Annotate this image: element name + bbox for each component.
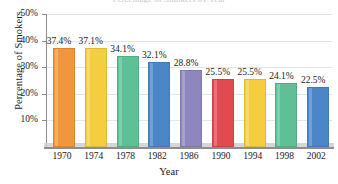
y-axis-tick-label: 10%: [4, 115, 38, 125]
bar-highlight: [119, 57, 122, 146]
y-axis-tick-label: 20%: [4, 89, 38, 99]
y-axis-tick-label: 50%: [4, 9, 38, 19]
x-axis-tick-label: 2002: [297, 151, 335, 161]
bar-highlight: [182, 71, 185, 146]
bar[interactable]: [212, 79, 234, 147]
bar-slot: 25.5%: [207, 14, 239, 147]
bar[interactable]: [307, 87, 329, 147]
bar-value-label: 22.5%: [294, 75, 332, 85]
bar[interactable]: [148, 62, 170, 147]
bar[interactable]: [275, 83, 297, 147]
bar-series: 37.4%37.1%34.1%32.1%28.8%25.5%25.5%24.1%…: [46, 14, 332, 147]
bar-highlight: [214, 80, 217, 146]
bar[interactable]: [117, 56, 139, 147]
bar-highlight: [55, 49, 58, 146]
plot-area: 10%20%30%40%50% 37.4%37.1%34.1%32.1%28.8…: [46, 14, 332, 147]
y-axis-tick-label: 40%: [4, 36, 38, 46]
bar-slot: 28.8%: [175, 14, 207, 147]
bar-slot: 34.1%: [112, 14, 144, 147]
bar-highlight: [150, 63, 153, 146]
bar-highlight: [246, 80, 249, 146]
bar[interactable]: [244, 79, 266, 147]
bar-slot: 37.4%: [48, 14, 80, 147]
bar[interactable]: [180, 70, 202, 147]
bar-slot: 32.1%: [143, 14, 175, 147]
bar-slot: 37.1%: [80, 14, 112, 147]
x-axis-title: Year: [0, 166, 338, 177]
bar-highlight: [87, 49, 90, 146]
bar[interactable]: [53, 48, 75, 147]
chart-title: Percentage of Smokers by Year: [0, 0, 338, 3]
bar-highlight: [309, 88, 312, 146]
bar-highlight: [277, 84, 280, 146]
y-axis-tick-label: 30%: [4, 62, 38, 72]
x-axis-line: [44, 147, 334, 149]
bar-chart: Percentage of Smokers by Year Percentage…: [0, 0, 338, 184]
bar[interactable]: [85, 48, 107, 147]
bar-slot: 22.5%: [302, 14, 334, 147]
